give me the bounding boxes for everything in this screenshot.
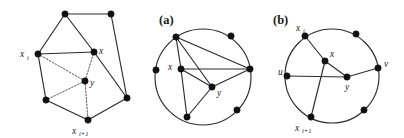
graph-node-y [344,74,350,80]
edge-solid [212,69,250,87]
graph-node [184,114,190,120]
edge-solid [181,69,212,87]
graph-node-x [178,66,184,72]
edge-solid [305,36,325,61]
label-x-i1-subscript: i+1 [79,130,88,137]
label-x-i: x [19,49,25,59]
edge-dotted [38,54,85,81]
graph-node [361,107,367,113]
panel-a-labels: x y [167,62,222,98]
label-x: x [167,62,173,72]
edge-solid [65,14,94,52]
panel-a-caption: (a) [159,13,174,27]
edge-solid [38,14,65,54]
graph-node [234,107,240,113]
label-x-i1-subscript: i+1 [302,127,311,134]
graph-node [353,31,359,37]
edge-solid [88,98,127,120]
label-x-i-subscript: i [303,27,305,34]
label-y: y [344,82,350,92]
label-x: x [98,46,104,56]
edge-dotted [85,81,88,120]
label-x-i-subscript: i [27,54,29,61]
label-v: v [384,59,389,69]
panel-left-nodes [35,11,130,123]
label-x-i1: x [294,123,300,133]
panel-b-labels: x i x u y v x i+1 [278,23,389,134]
edge-solid [46,100,88,120]
edge-dotted [85,52,94,81]
graph-node-x-i [35,51,41,57]
panel-left: x i x y x i+1 [19,11,130,137]
figure-svg: x i x y x i+1 (a) [0,0,404,138]
figure-container: x i x y x i+1 (a) [0,0,404,138]
edge-solid [347,68,378,77]
graph-node-u [284,73,290,79]
label-u: u [278,67,283,77]
edge-solid [181,69,187,117]
panel-a: (a) x [153,13,253,125]
graph-node-x [322,58,328,64]
graph-node [153,67,159,73]
panel-b: (b) x i x [273,13,389,134]
label-x-i: x [295,23,301,33]
graph-node-y [82,78,88,84]
panel-a-nodes [153,33,253,120]
graph-node [124,95,130,101]
graph-node [43,97,49,103]
panel-b-caption: (b) [273,13,288,27]
graph-node [228,33,234,39]
edge-solid [111,14,127,98]
graph-node [247,66,253,72]
graph-node-x-i1 [308,114,314,120]
label-y: y [216,88,222,98]
graph-node-x-i1 [85,117,91,123]
graph-node-v [375,65,381,71]
panel-left-solid-edges [38,14,127,120]
edge-solid [176,37,181,69]
panel-left-labels: x i x y x i+1 [19,46,104,137]
label-y: y [89,78,95,88]
graph-node-x [91,49,97,55]
edge-solid [38,54,46,100]
edge-solid [325,61,347,77]
label-x-i1: x [71,126,77,136]
edge-solid [187,87,212,117]
label-x: x [329,49,335,59]
edge-solid [287,76,347,77]
graph-node-y [209,84,215,90]
panel-a-solid-edges [176,37,250,117]
graph-node [173,34,179,40]
graph-node [108,11,114,17]
edge-dotted [46,81,85,100]
edge-solid [38,52,94,54]
graph-node [62,11,68,17]
edge-solid [311,61,325,117]
